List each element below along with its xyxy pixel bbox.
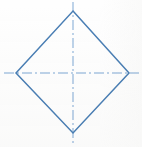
diamond-centerline-figure [0, 0, 142, 147]
drawing-canvas [0, 0, 142, 147]
